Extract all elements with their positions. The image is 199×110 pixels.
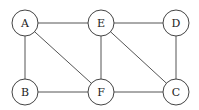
edge-e-c	[101, 23, 176, 92]
node-a: A	[12, 10, 38, 36]
node-d: D	[163, 10, 189, 36]
node-c: C	[163, 79, 189, 105]
node-f: F	[88, 79, 114, 105]
node-b-label: B	[21, 86, 29, 99]
node-e-label: E	[97, 17, 105, 30]
node-b: B	[12, 79, 38, 105]
node-d-label: D	[172, 17, 181, 30]
edge-a-f	[25, 23, 101, 92]
graph-diagram: A E D B F C	[0, 0, 199, 110]
node-a-label: A	[20, 17, 30, 30]
node-c-label: C	[172, 86, 180, 99]
node-e: E	[88, 10, 114, 36]
node-f-label: F	[97, 86, 105, 99]
